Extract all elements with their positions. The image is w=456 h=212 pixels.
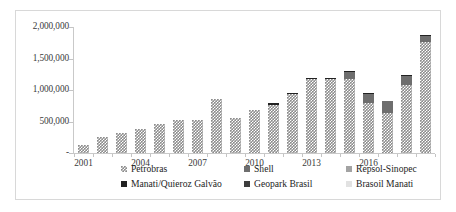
legend-item[interactable]: Repsol-Sinopec [346,163,417,174]
bar-segment [78,145,89,153]
bar-column [268,103,279,153]
legend-label: Petrobras [131,163,167,174]
bar-column [287,93,298,153]
bar-segment [249,110,260,153]
x-axis-tick-mark [359,154,360,157]
bar-column [192,120,203,153]
x-axis-tick-mark [93,154,94,157]
bar-column [420,35,431,153]
bar-segment [382,113,393,153]
x-axis-tick-mark [245,154,246,157]
legend-row: Manati/Quieroz GalvãoGeopark BrasilBraso… [16,178,442,193]
bar-column [401,75,412,153]
y-axis-tick-mark [69,59,73,60]
x-axis-tick-mark [188,154,189,157]
x-axis-tick-mark [264,154,265,157]
legend-row: PetrobrasShellRepsol-Sinopec [16,163,442,178]
legend-label: Shell [254,163,274,174]
bar-column [211,99,222,153]
bar-column [173,120,184,153]
bar-column [249,110,260,153]
x-axis-tick-mark [112,154,113,157]
x-axis-tick-mark [378,154,379,157]
y-axis-tick-mark [69,27,73,28]
bar-segment [173,120,184,153]
bar-column [230,118,241,153]
legend-item[interactable]: Geopark Brasil [244,178,312,189]
bar-segment [154,124,165,153]
bar-segment [211,99,222,153]
bar-segment [344,72,355,79]
x-axis-tick-mark [207,154,208,157]
y-axis-tick-mark [69,122,73,123]
x-axis-tick-mark [283,154,284,157]
bar-column [135,129,146,153]
bar-segment [192,120,203,153]
bar-column [97,137,108,153]
x-axis-tick-mark [226,154,227,157]
bar-column [78,145,89,153]
bar-segment [325,79,336,153]
x-axis-tick-mark [416,154,417,157]
y-axis-tick-mark [69,90,73,91]
legend-label: Geopark Brasil [254,178,312,189]
bar-segment [363,94,374,103]
bar-column [382,101,393,153]
x-axis-tick-mark [435,154,436,157]
bar-segment [344,79,355,153]
x-axis-tick-mark [150,154,151,157]
legend-label: Brasoil Manati [356,178,413,189]
legend-swatch-icon [121,181,127,187]
x-axis-tick-mark [74,154,75,157]
bar-column [154,124,165,153]
plot-area: -500,0001,000,0001,500,0002,000,000 2001… [16,11,442,159]
x-axis-tick-mark [397,154,398,157]
bar-column [116,133,127,153]
y-axis-tick-label: 500,000 [15,117,69,126]
x-axis-tick-mark [321,154,322,157]
y-axis-tick-label: 1,500,000 [15,54,69,63]
legend-item[interactable]: Shell [244,163,274,174]
legend-item[interactable]: Petrobras [121,163,167,174]
bar-column [306,78,317,153]
legend-item[interactable]: Brasoil Manati [346,178,413,189]
bar-segment [401,85,412,153]
chart-figure: -500,0001,000,0001,500,0002,000,000 2001… [15,10,441,200]
bar-segment [230,118,241,153]
bar-segment [382,101,393,112]
legend-item[interactable]: Manati/Quieroz Galvão [121,178,222,189]
bar-column [344,71,355,153]
legend-swatch-icon [244,166,250,172]
bar-column [363,93,374,153]
bar-column [325,78,336,153]
bar-segment [287,94,298,153]
x-axis-tick-mark [169,154,170,157]
bar-segment [363,103,374,153]
y-axis-tick-label: - [15,148,69,157]
bar-segment [135,129,146,153]
bar-series-container [74,11,435,153]
x-axis-tick-mark [340,154,341,157]
y-axis-labels: -500,0001,000,0001,500,0002,000,000 [16,11,69,159]
bar-segment [97,137,108,153]
legend-swatch-icon [346,166,352,172]
legend-swatch-icon [346,181,352,187]
x-axis-line [73,153,435,154]
y-axis-tick-mark [69,153,73,154]
x-axis-tick-mark [302,154,303,157]
legend-label: Repsol-Sinopec [356,163,417,174]
x-axis-tick-mark [131,154,132,157]
chart-legend: PetrobrasShellRepsol-Sinopec Manati/Quie… [16,163,442,199]
y-axis-tick-label: 2,000,000 [15,22,69,31]
bar-segment [420,42,431,153]
bar-segment [306,79,317,153]
bar-segment [116,133,127,153]
bar-segment [401,76,412,85]
legend-label: Manati/Quieroz Galvão [131,178,222,189]
legend-swatch-icon [244,181,250,187]
legend-swatch-icon [121,166,127,172]
bar-segment [268,105,279,153]
y-axis-tick-label: 1,000,000 [15,85,69,94]
